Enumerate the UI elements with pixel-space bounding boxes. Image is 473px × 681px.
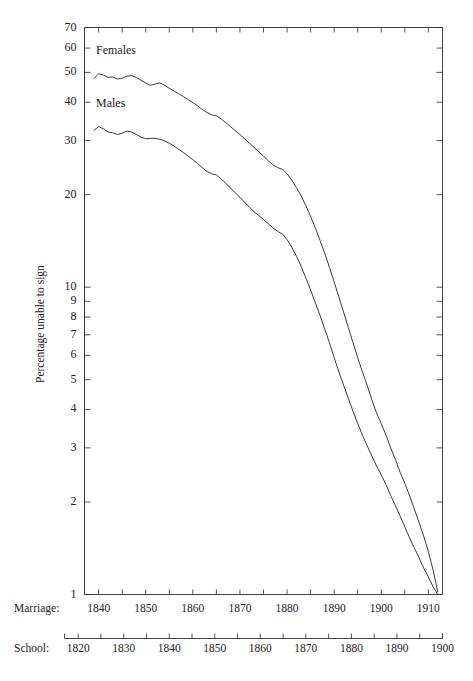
- y-axis-title: Percentage unable to sign: [34, 265, 46, 383]
- y-axis-ticks: [85, 28, 443, 595]
- school-tick-label: 1840: [147, 643, 191, 655]
- y-tick-label: 20: [39, 188, 77, 200]
- series-path-males: [94, 127, 438, 595]
- marriage-tick-label: 1860: [171, 603, 215, 615]
- marriage-tick-label: 1850: [124, 603, 168, 615]
- marriage-tick-label: 1870: [218, 603, 262, 615]
- y-tick-label: 70: [39, 21, 77, 33]
- school-axis-title: School:: [14, 643, 49, 655]
- y-tick-label: 1: [39, 588, 77, 600]
- chart-figure: 12345678910203040506070 Percentage unabl…: [0, 0, 473, 681]
- plot-frame-left-top: [85, 28, 443, 595]
- y-tick-label: 3: [39, 441, 77, 453]
- marriage-axis-title: Marriage:: [14, 603, 59, 615]
- school-axis: [65, 634, 443, 639]
- school-tick-label: 1850: [193, 643, 237, 655]
- marriage-tick-label: 1910: [406, 603, 450, 615]
- top-axis-ticks: [99, 28, 429, 33]
- school-tick-label: 1870: [284, 643, 328, 655]
- school-tick-label: 1880: [329, 643, 373, 655]
- y-tick-label: 2: [39, 495, 77, 507]
- marriage-tick-label: 1900: [359, 603, 403, 615]
- marriage-tick-label: 1840: [77, 603, 121, 615]
- marriage-tick-label: 1880: [265, 603, 309, 615]
- school-tick-label: 1890: [375, 643, 419, 655]
- y-tick-label: 4: [39, 402, 77, 414]
- school-tick-label: 1860: [238, 643, 282, 655]
- bottom-axis-ticks: [99, 590, 429, 595]
- school-tick-label: 1820: [56, 643, 100, 655]
- series-label-males: Males: [96, 97, 125, 109]
- school-tick-label: 1830: [102, 643, 146, 655]
- school-tick-label: 1900: [421, 643, 465, 655]
- marriage-tick-label: 1890: [312, 603, 356, 615]
- series-path-females: [94, 74, 438, 592]
- plot-frame: [85, 28, 443, 595]
- y-tick-label: 60: [39, 41, 77, 53]
- y-tick-label: 40: [39, 95, 77, 107]
- y-tick-label: 30: [39, 134, 77, 146]
- y-tick-label: 50: [39, 65, 77, 77]
- data-series-group: [94, 74, 438, 595]
- series-label-females: Females: [96, 44, 136, 56]
